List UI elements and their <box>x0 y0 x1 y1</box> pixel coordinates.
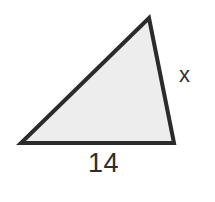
right-side-unknown-label: x <box>179 64 190 86</box>
base-side-length-label: 14 <box>0 150 207 177</box>
triangle-figure: 14 x <box>0 0 215 202</box>
triangle-shape <box>21 18 174 143</box>
